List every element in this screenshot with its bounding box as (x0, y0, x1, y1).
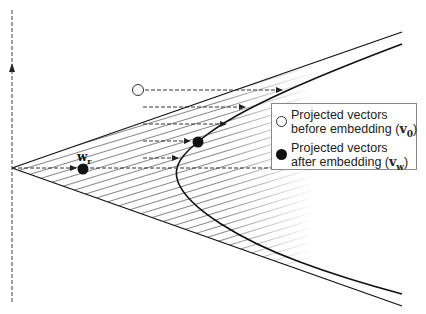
wr-label-main: w (77, 150, 87, 164)
open-circle-icon (276, 116, 287, 127)
filled-circle-icon (276, 149, 287, 160)
legend-before-line1: Projected vectors (291, 108, 417, 122)
filled-point-after-embedding (193, 137, 204, 148)
legend-after-symbol-sub: w (396, 162, 404, 172)
axis-arrow-icon (9, 63, 15, 72)
legend-after-line2: after embedding (vw) (291, 155, 408, 174)
legend-text-after: Projected vectors after embedding (vw) (291, 141, 408, 174)
open-point-before-embedding (133, 85, 144, 96)
wr-label-sub: r (87, 156, 91, 166)
legend: Projected vectors before embedding (v0) … (271, 103, 417, 170)
legend-before-prefix: before embedding ( (291, 122, 399, 136)
legend-after-symbol: vw (389, 154, 404, 169)
legend-after-prefix: after embedding ( (291, 155, 389, 169)
wr-label: wr (77, 150, 92, 166)
legend-after-suffix: ) (404, 155, 408, 169)
legend-before-symbol: v0 (399, 121, 413, 136)
legend-before-suffix: ) (413, 122, 417, 136)
legend-before-symbol-main: v (399, 121, 406, 136)
legend-before-line2: before embedding (v0) (291, 122, 417, 141)
legend-text-before: Projected vectors before embedding (v0) (291, 108, 417, 141)
legend-after-line1: Projected vectors (291, 141, 408, 155)
